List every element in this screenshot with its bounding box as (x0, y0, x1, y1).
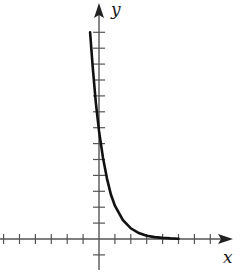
axes (0, 3, 233, 270)
y-axis-label: y (110, 0, 121, 19)
tick-marks (4, 32, 211, 255)
exponential-decay-plot: y x (0, 0, 245, 272)
x-axis-label: x (223, 247, 233, 267)
